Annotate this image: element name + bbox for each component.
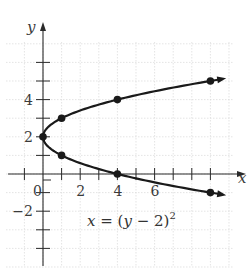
y-tick-label: −2	[12, 203, 33, 219]
y-tick-label: 4	[24, 92, 33, 108]
curve-arrowheads	[210, 76, 226, 197]
data-point	[114, 96, 122, 104]
equation-eq: = (	[95, 212, 123, 230]
data-point	[114, 170, 122, 178]
equation-exponent: 2	[169, 210, 175, 221]
x-tick-label: 2	[76, 183, 85, 199]
x-tick-label: 4	[113, 183, 122, 199]
equation-label: x = (y − 2)2	[87, 210, 176, 230]
parabola-plot: 0246−224 y x x = (y − 2)2	[0, 0, 250, 271]
arrowhead-icon	[217, 76, 226, 83]
x-tick-label: 6	[151, 183, 160, 199]
arrowhead-icon	[217, 190, 226, 197]
grid	[6, 42, 234, 267]
y-tick-label: 2	[24, 129, 33, 145]
data-point	[58, 114, 66, 122]
x-axis-label: x	[238, 169, 247, 187]
y-axis-arrow-icon	[40, 22, 46, 31]
data-point	[39, 133, 47, 141]
x-tick-label: 0	[33, 183, 42, 199]
data-point	[58, 152, 66, 160]
equation-rest: − 2)	[132, 212, 170, 230]
y-axis-label: y	[26, 18, 36, 36]
